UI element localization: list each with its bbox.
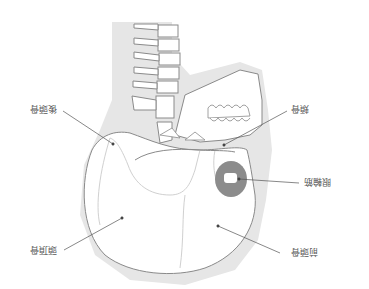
label-frontal: 前頭骨	[291, 247, 318, 258]
label-zygomatic: 頬骨	[291, 104, 309, 115]
label-occipital: 後頭骨	[30, 104, 57, 115]
skull-diagram: 後頭骨 頬骨 眼輪筋 頭頂骨 前頭骨	[0, 0, 369, 289]
label-parietal: 頭頂骨	[30, 245, 57, 255]
teeth	[208, 105, 250, 121]
label-orbicularis: 眼輪筋	[304, 177, 331, 188]
eye-socket	[224, 173, 237, 183]
cranium-outline	[84, 132, 255, 273]
